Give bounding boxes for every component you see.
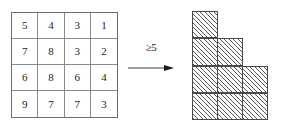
diagram-cell bbox=[242, 66, 268, 93]
right-arrow-icon bbox=[128, 64, 174, 72]
matrix-cell: 6 bbox=[65, 65, 91, 91]
young-diagram bbox=[192, 11, 272, 121]
matrix-cell: 4 bbox=[91, 65, 117, 91]
diagram-row bbox=[192, 66, 272, 93]
diagram-cell bbox=[192, 66, 218, 93]
diagram-cell bbox=[192, 11, 218, 38]
diagram-row bbox=[192, 93, 272, 120]
matrix-cell: 8 bbox=[38, 65, 64, 91]
diagram-cell bbox=[242, 93, 268, 120]
transform-arrow: ≥5 bbox=[126, 42, 176, 72]
matrix-cell: 5 bbox=[12, 13, 38, 39]
matrix-cell: 3 bbox=[65, 13, 91, 39]
diagram-row bbox=[192, 38, 272, 65]
matrix-cell: 7 bbox=[12, 39, 38, 65]
matrix-cell: 6 bbox=[12, 65, 38, 91]
diagram-cell bbox=[217, 38, 243, 65]
threshold-label: ≥5 bbox=[126, 42, 176, 53]
matrix-cell: 3 bbox=[91, 91, 117, 117]
diagram-cell bbox=[217, 93, 243, 120]
matrix-cell: 9 bbox=[12, 91, 38, 117]
matrix-cell: 8 bbox=[38, 39, 64, 65]
matrix-cell: 4 bbox=[38, 13, 64, 39]
matrix-grid: 5 4 3 1 7 8 3 2 6 8 6 4 9 7 7 3 bbox=[11, 12, 118, 118]
diagram-cell bbox=[217, 66, 243, 93]
diagram-cell bbox=[192, 38, 218, 65]
matrix-cell: 1 bbox=[91, 13, 117, 39]
diagram-cell bbox=[192, 93, 218, 120]
diagram-row bbox=[192, 11, 272, 38]
matrix-cell: 2 bbox=[91, 39, 117, 65]
matrix-cell: 7 bbox=[38, 91, 64, 117]
matrix-cell: 3 bbox=[65, 39, 91, 65]
matrix-cell: 7 bbox=[65, 91, 91, 117]
